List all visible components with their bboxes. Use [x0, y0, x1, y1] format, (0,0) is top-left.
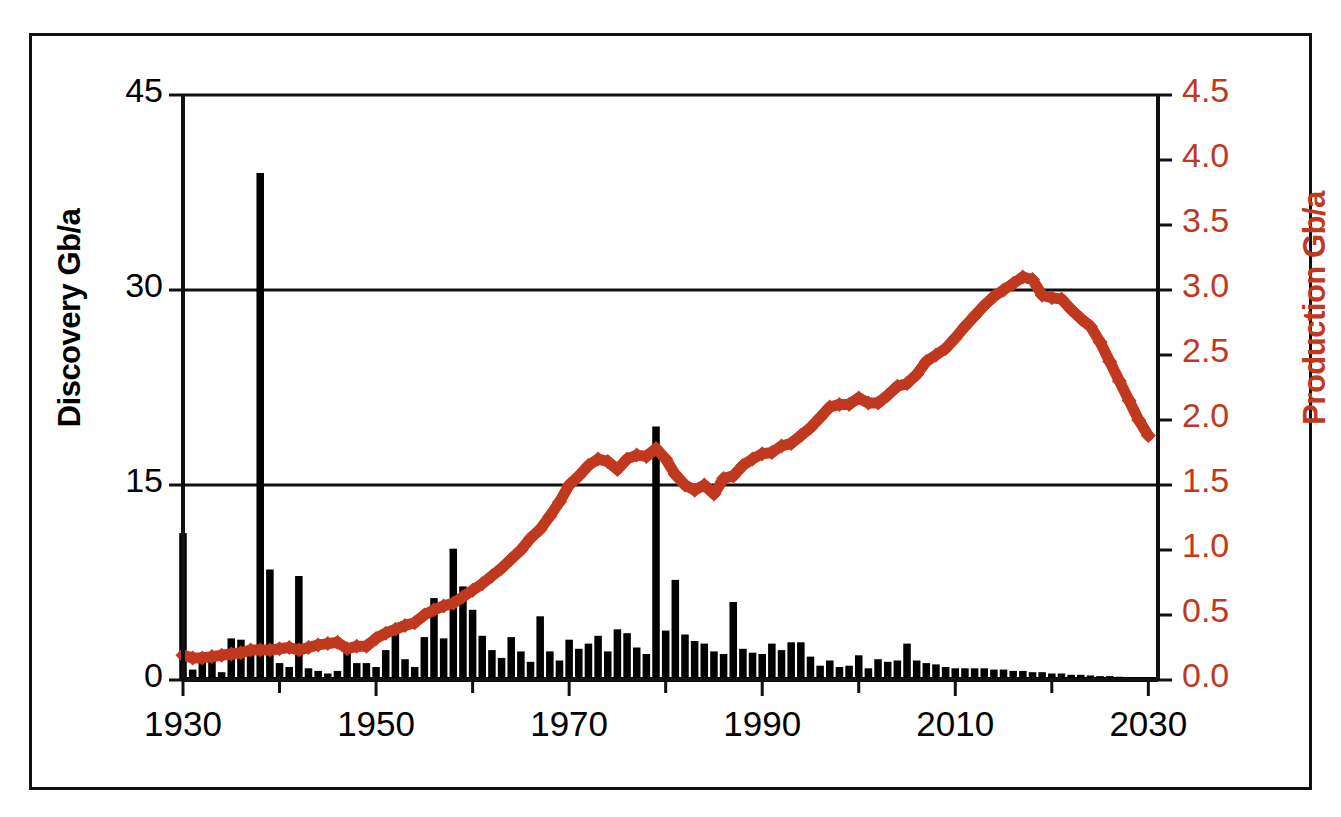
production-polyline	[183, 277, 1148, 658]
discovery-bar	[749, 653, 757, 680]
y-tick-label-left: 45	[53, 71, 163, 110]
discovery-bar	[546, 651, 554, 680]
axes-lines	[169, 95, 1172, 696]
discovery-bar	[382, 650, 390, 680]
discovery-bar	[614, 629, 622, 680]
discovery-bar	[652, 427, 660, 681]
discovery-bar	[778, 650, 786, 680]
y-tick-label-right: 0.0	[1182, 656, 1292, 695]
y-tick-label-right: 0.5	[1182, 591, 1292, 630]
discovery-bar	[807, 657, 815, 680]
y-tick-label-right: 1.0	[1182, 526, 1292, 565]
discovery-bar	[729, 602, 737, 680]
discovery-bar	[623, 633, 631, 680]
discovery-bar	[681, 635, 689, 681]
discovery-bar	[421, 637, 429, 680]
discovery-bar	[401, 659, 409, 680]
discovery-bar	[633, 648, 641, 681]
discovery-bar	[469, 610, 477, 680]
discovery-bar	[256, 173, 264, 680]
y-axis-right-title: Production Gb/a	[1297, 178, 1333, 438]
discovery-bar	[787, 642, 795, 680]
y-tick-label-right: 2.5	[1182, 331, 1292, 370]
discovery-bar	[295, 576, 303, 680]
y-axis-left-title: Discovery Gb/a	[52, 188, 88, 448]
y-tick-label-left: 0	[53, 656, 163, 695]
discovery-bar	[691, 641, 699, 680]
discovery-bar	[498, 658, 506, 680]
discovery-bar	[903, 644, 911, 680]
chart-plot-area	[0, 0, 1341, 817]
discovery-bar	[604, 651, 612, 680]
discovery-bar	[874, 659, 882, 680]
y-tick-label-right: 2.0	[1182, 396, 1292, 435]
production-line	[176, 270, 1156, 666]
discovery-bar	[594, 636, 602, 680]
discovery-bar	[701, 644, 709, 680]
y-tick-label-right: 1.5	[1182, 461, 1292, 500]
x-tick-label: 1950	[306, 704, 446, 744]
y-tick-label-right: 4.5	[1182, 71, 1292, 110]
x-tick-label: 1970	[499, 704, 639, 744]
discovery-bar	[768, 644, 776, 680]
discovery-bar	[662, 631, 670, 680]
y-tick-label-right: 4.0	[1182, 136, 1292, 175]
discovery-bar	[507, 637, 515, 680]
x-tick-label: 1930	[113, 704, 253, 744]
discovery-bar	[855, 655, 863, 680]
discovery-bar	[478, 636, 486, 680]
discovery-bar	[643, 654, 651, 680]
discovery-bar	[536, 616, 544, 680]
discovery-bar	[488, 650, 496, 680]
discovery-bar	[739, 649, 747, 680]
chart-figure: Discovery Gb/a Production Gb/a 01530450.…	[0, 0, 1341, 817]
discovery-bar	[517, 651, 525, 680]
discovery-bar	[710, 651, 718, 680]
discovery-bar	[585, 644, 593, 680]
discovery-bar	[797, 642, 805, 680]
discovery-bar	[440, 638, 448, 680]
y-tick-label-left: 30	[53, 266, 163, 305]
x-tick-label: 2010	[885, 704, 1025, 744]
discovery-bar	[266, 570, 274, 681]
discovery-bars	[179, 173, 1158, 680]
x-tick-label: 2030	[1078, 704, 1218, 744]
y-tick-label-left: 15	[53, 461, 163, 500]
x-tick-label: 1990	[692, 704, 832, 744]
y-tick-label-right: 3.0	[1182, 266, 1292, 305]
discovery-bar	[575, 649, 583, 680]
discovery-bar	[758, 654, 766, 680]
y-tick-label-right: 3.5	[1182, 201, 1292, 240]
discovery-bar	[565, 640, 573, 680]
discovery-bar	[672, 580, 680, 680]
discovery-bar	[450, 549, 458, 680]
discovery-bar	[720, 654, 728, 680]
